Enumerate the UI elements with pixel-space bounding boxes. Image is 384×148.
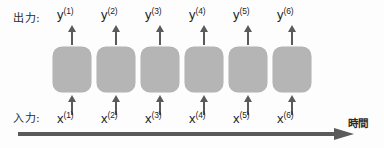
recurrent-cell-t4 [185, 47, 223, 92]
recurrent-cell-t2 [97, 47, 135, 92]
time-axis-shaft [18, 132, 338, 136]
input-label-t1: x(1) [57, 110, 73, 126]
output-arrow-up-icon-t6 [288, 25, 297, 45]
recurrent-cell-t3 [141, 47, 179, 92]
output-arrow-up-icon-t3 [156, 25, 165, 45]
output-arrow-up-icon-t5 [244, 25, 253, 45]
arrow-shaft [291, 30, 293, 45]
arrow-shaft [115, 30, 117, 45]
arrow-shaft [203, 30, 205, 45]
input-label-t3: x(3) [145, 110, 161, 126]
output-label-t1: y(1) [57, 6, 73, 22]
output-label-t5: y(5) [233, 6, 249, 22]
output-label-t6: y(6) [277, 6, 293, 22]
recurrent-cell-t1 [53, 47, 91, 92]
input-label-t2: x(2) [101, 110, 117, 126]
output-label-t2: y(2) [101, 6, 117, 22]
input-superscript: (3) [152, 110, 162, 120]
recurrent-cell-t6 [273, 47, 311, 92]
arrow-shaft [159, 30, 161, 45]
input-label-t5: x(5) [233, 110, 249, 126]
input-label-t6: x(6) [277, 110, 293, 126]
input-superscript: (4) [196, 110, 206, 120]
output-label-t3: y(3) [145, 6, 161, 22]
output-arrow-up-icon-t1 [68, 25, 77, 45]
recurrent-cell-t5 [229, 47, 267, 92]
output-arrow-up-icon-t4 [200, 25, 209, 45]
input-superscript: (5) [240, 110, 250, 120]
input-superscript: (1) [64, 110, 74, 120]
arrow-shaft [71, 30, 73, 45]
input-row-label: 入力: [13, 109, 40, 125]
input-label-t4: x(4) [189, 110, 205, 126]
input-superscript: (2) [108, 110, 118, 120]
output-arrow-up-icon-t2 [112, 25, 121, 45]
arrow-shaft [247, 30, 249, 45]
output-superscript: (2) [108, 6, 118, 16]
output-superscript: (4) [196, 6, 206, 16]
output-superscript: (3) [152, 6, 162, 16]
output-superscript: (6) [284, 6, 294, 16]
output-label-t4: y(4) [189, 6, 205, 22]
output-superscript: (1) [64, 6, 74, 16]
output-row-label: 出力: [13, 9, 40, 25]
rnn-unrolled-diagram: 出力: 入力: 時間 y(1)x(1)y(2)x(2)y(3)x(3)y(4)x… [0, 0, 384, 148]
time-axis-arrowhead-icon [334, 128, 354, 140]
output-superscript: (5) [240, 6, 250, 16]
time-axis-arrow [18, 128, 358, 142]
input-superscript: (6) [284, 110, 294, 120]
